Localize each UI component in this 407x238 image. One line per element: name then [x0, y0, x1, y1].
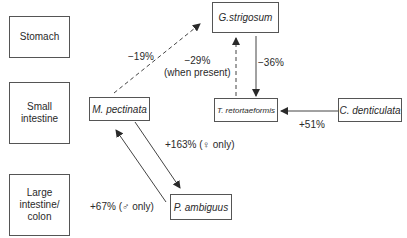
species-c-denticulata: C. denticulata — [338, 98, 402, 122]
region-small-intestine-label: Small intestine — [15, 101, 65, 125]
arrow-p-to-m — [116, 130, 166, 202]
region-large-intestine: Large intestine/ colon — [9, 174, 70, 236]
species-c-denticulata-label: C. denticulata — [339, 105, 400, 116]
species-t-retortaeformis-label: T. retortaeformis — [217, 106, 275, 115]
edge-label-p-to-m: +67% (♂ only) — [90, 201, 154, 213]
region-small-intestine: Small intestine — [9, 82, 70, 144]
region-stomach: Stomach — [9, 16, 70, 58]
edge-label-g-to-t: −36% — [258, 57, 284, 69]
species-g-strigosum-label: G.strigosum — [219, 12, 273, 23]
region-stomach-label: Stomach — [20, 31, 59, 43]
edge-label-m-to-g: −19% — [128, 51, 154, 63]
edge-label-t-to-g: −29% (when present) — [164, 55, 231, 79]
edge-label-c-to-t: +51% — [299, 119, 325, 131]
species-g-strigosum: G.strigosum — [212, 2, 279, 33]
species-t-retortaeformis: T. retortaeformis — [214, 98, 278, 122]
species-p-ambiguus: P. ambiguus — [170, 194, 232, 220]
edge-label-m-to-p: +163% (♀ only) — [165, 139, 234, 151]
species-m-pectinata-label: M. pectinata — [92, 104, 146, 115]
edge-label-t-to-g-line1: −29% — [164, 55, 231, 67]
edge-label-t-to-g-line2: (when present) — [164, 67, 231, 79]
arrow-m-to-p — [135, 122, 180, 188]
species-p-ambiguus-label: P. ambiguus — [174, 202, 228, 213]
region-large-intestine-label: Large intestine/ colon — [14, 187, 66, 223]
species-m-pectinata: M. pectinata — [89, 97, 150, 121]
